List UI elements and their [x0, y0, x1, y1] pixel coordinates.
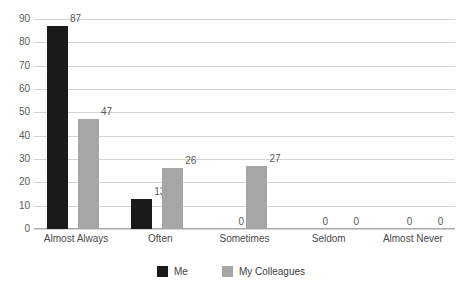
bar-value-label: 0 — [438, 217, 444, 227]
y-axis-tick-label: 50 — [0, 107, 30, 117]
x-axis-category-label: Almost Never — [371, 233, 455, 245]
chart-title — [0, 0, 462, 5]
bar-group: 1326 — [118, 19, 202, 229]
legend-item-my-colleagues[interactable]: My Colleagues — [222, 266, 305, 277]
bar-value-label: 0 — [407, 217, 413, 227]
y-axis-tick-label: 40 — [0, 131, 30, 141]
y-axis-tick-label: 0 — [0, 224, 30, 234]
y-axis-labels: 9080706050403020100 — [0, 19, 30, 229]
legend-item-me[interactable]: Me — [157, 266, 188, 277]
bar-value-label: 27 — [269, 154, 280, 164]
bar[interactable] — [246, 166, 267, 229]
legend-label-my-colleagues: My Colleagues — [239, 266, 305, 277]
y-axis-tick-label: 30 — [0, 154, 30, 164]
bar[interactable] — [47, 26, 68, 229]
bar-chart: 9080706050403020100 874713260270000 Almo… — [0, 0, 462, 288]
x-axis-category-label: Almost Always — [34, 233, 118, 245]
x-axis-category-label: Seldom — [287, 233, 371, 245]
bar-value-label: 0 — [238, 217, 244, 227]
bar-value-label: 87 — [70, 14, 81, 24]
bar-value-label: 0 — [323, 217, 329, 227]
bar[interactable] — [162, 168, 183, 229]
x-axis-category-label: Sometimes — [202, 233, 286, 245]
bar-value-label: 26 — [185, 156, 196, 166]
bar[interactable] — [131, 199, 152, 229]
legend-label-me: Me — [174, 266, 188, 277]
y-axis-tick-label: 70 — [0, 61, 30, 71]
chart-legend: Me My Colleagues — [0, 263, 462, 279]
y-axis-tick-label: 80 — [0, 37, 30, 47]
bar-group: 8747 — [34, 19, 118, 229]
plot-area: 874713260270000 — [34, 19, 455, 229]
legend-swatch-my-colleagues — [222, 266, 233, 277]
y-axis-tick-label: 60 — [0, 84, 30, 94]
y-axis-tick-label: 90 — [0, 14, 30, 24]
legend-swatch-me — [157, 266, 168, 277]
bar-group: 00 — [371, 19, 455, 229]
y-axis-tick-label: 20 — [0, 177, 30, 187]
x-axis-category-label: Often — [118, 233, 202, 245]
bar[interactable] — [78, 119, 99, 229]
bar-value-label: 47 — [101, 107, 112, 117]
gridline — [34, 229, 455, 230]
y-axis-tick-label: 10 — [0, 201, 30, 211]
bar-group: 027 — [202, 19, 286, 229]
bar-value-label: 0 — [354, 217, 360, 227]
x-axis-labels: Almost AlwaysOftenSometimesSeldomAlmost … — [34, 233, 455, 249]
bar-group: 00 — [287, 19, 371, 229]
